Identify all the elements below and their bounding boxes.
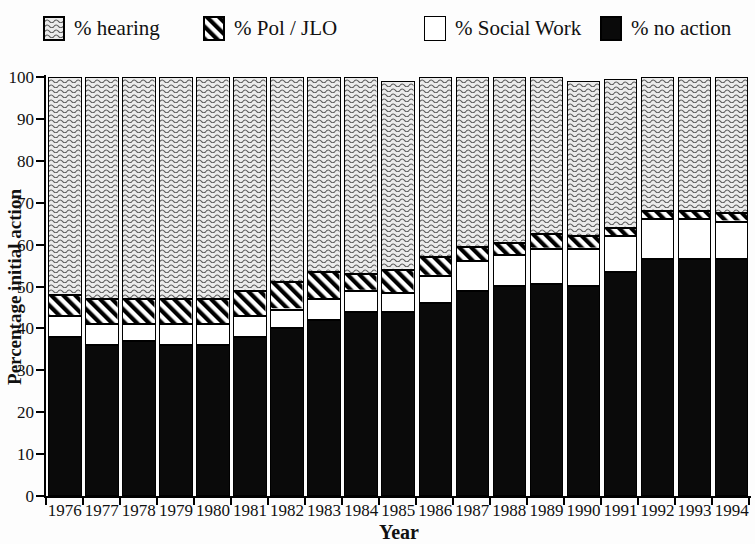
segment-1981-wave — [233, 77, 267, 291]
legend-label-no-action: % no action — [631, 16, 731, 41]
x-axis-tick-label: 1986 — [414, 502, 456, 520]
y-axis-tick-label: 30 — [0, 362, 34, 379]
legend-label-pol-jlo: % Pol / JLO — [234, 16, 337, 41]
segment-1990-stripe — [567, 236, 601, 249]
segment-1987-wave — [456, 77, 490, 247]
segment-1984-stripe — [344, 274, 378, 291]
segment-1988-wave — [493, 77, 527, 243]
bar-1980 — [196, 77, 230, 496]
bar-1989 — [530, 77, 564, 496]
segment-1993-white — [678, 219, 712, 259]
segment-1982-stripe — [270, 282, 304, 309]
segment-1985-white — [381, 293, 415, 312]
white-swatch-icon — [424, 16, 446, 41]
segment-1992-black — [641, 259, 675, 496]
x-axis-tick-label: 1983 — [303, 502, 345, 520]
segment-1981-white — [233, 316, 267, 337]
x-axis-tick-label: 1990 — [562, 502, 604, 520]
bar-1992 — [641, 77, 675, 496]
segment-1980-white — [196, 324, 230, 345]
y-axis-tick-label: 100 — [0, 69, 34, 86]
segment-1989-black — [530, 284, 564, 496]
segment-1982-wave — [270, 77, 304, 282]
bar-1988 — [493, 77, 527, 496]
segment-1979-stripe — [159, 299, 193, 324]
legend-item-no-action: % no action — [600, 13, 731, 43]
segment-1980-stripe — [196, 299, 230, 324]
bar-1976 — [48, 77, 82, 496]
x-axis-tick-label: 1993 — [674, 502, 716, 520]
segment-1986-stripe — [419, 257, 453, 276]
segment-1984-wave — [344, 77, 378, 274]
segment-1982-white — [270, 310, 304, 329]
legend-item-pol-jlo: % Pol / JLO — [203, 13, 337, 43]
segment-1979-black — [159, 345, 193, 496]
segment-1985-wave — [381, 81, 415, 270]
x-axis-tick-label: 1984 — [340, 502, 382, 520]
segment-1977-stripe — [85, 299, 119, 324]
bar-1987 — [456, 77, 490, 496]
segment-1992-wave — [641, 77, 675, 211]
wave-pattern-swatch-icon — [43, 16, 65, 41]
x-axis-title: Year — [48, 521, 750, 544]
y-axis-tick-label: 10 — [0, 446, 34, 463]
segment-1983-white — [307, 299, 341, 320]
y-axis-tick-label: 50 — [0, 279, 34, 296]
bar-1981 — [233, 77, 267, 496]
segment-1976-white — [48, 316, 82, 337]
segment-1987-black — [456, 291, 490, 496]
y-axis-tick — [36, 202, 45, 204]
segment-1989-white — [530, 249, 564, 285]
y-axis-tick — [36, 369, 45, 371]
y-axis-tick — [36, 411, 45, 413]
segment-1987-white — [456, 261, 490, 290]
segment-1994-black — [715, 259, 749, 496]
segment-1976-black — [48, 337, 82, 496]
x-axis-tick-label: 1981 — [229, 502, 271, 520]
segment-1980-black — [196, 345, 230, 496]
segment-1978-white — [122, 324, 156, 341]
stacked-bar-chart-figure: % hearing % Pol / JLO % Social Work % no… — [0, 0, 755, 544]
segment-1980-wave — [196, 77, 230, 299]
y-axis-tick — [36, 118, 45, 120]
black-swatch-icon — [600, 16, 622, 41]
segment-1976-wave — [48, 77, 82, 295]
segment-1981-black — [233, 337, 267, 496]
segment-1991-black — [604, 272, 638, 496]
y-axis-tick-label: 40 — [0, 320, 34, 337]
x-axis-tick-label: 1982 — [266, 502, 308, 520]
segment-1987-stripe — [456, 247, 490, 262]
legend-label-social-work: % Social Work — [455, 16, 581, 41]
segment-1984-black — [344, 312, 378, 496]
segment-1992-white — [641, 219, 675, 259]
y-axis-tick — [36, 76, 45, 78]
x-axis-tick-label: 1989 — [525, 502, 567, 520]
bar-1982 — [270, 77, 304, 496]
legend-item-hearing: % hearing — [43, 13, 160, 43]
segment-1983-wave — [307, 77, 341, 272]
segment-1978-black — [122, 341, 156, 496]
x-axis-tick-label: 1979 — [155, 502, 197, 520]
segment-1976-stripe — [48, 295, 82, 316]
x-axis-tick-label: 1978 — [118, 502, 160, 520]
x-axis-tick-label: 1976 — [44, 502, 86, 520]
y-axis-tick-label: 20 — [0, 404, 34, 421]
segment-1989-wave — [530, 77, 564, 234]
segment-1993-black — [678, 259, 712, 496]
segment-1986-black — [419, 303, 453, 496]
segment-1993-wave — [678, 77, 712, 211]
segment-1990-wave — [567, 81, 601, 236]
segment-1983-stripe — [307, 272, 341, 299]
x-axis-tick-label: 1994 — [711, 502, 753, 520]
legend-label-hearing: % hearing — [74, 16, 160, 41]
x-axis-tick-label: 1985 — [377, 502, 419, 520]
segment-1985-black — [381, 312, 415, 496]
bar-1977 — [85, 77, 119, 496]
y-axis-tick-label: 60 — [0, 237, 34, 254]
legend-item-social-work: % Social Work — [424, 13, 581, 43]
segment-1988-stripe — [493, 243, 527, 256]
y-axis-tick — [36, 327, 45, 329]
bar-1984 — [344, 77, 378, 496]
segment-1984-white — [344, 291, 378, 312]
segment-1986-wave — [419, 77, 453, 257]
